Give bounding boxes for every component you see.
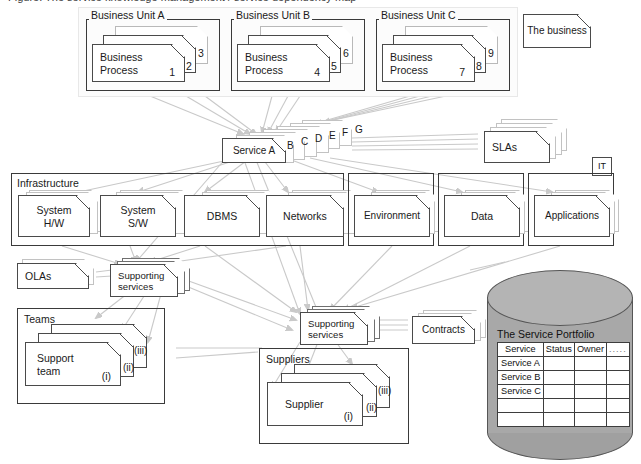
support-team-marker-iii: (iii) bbox=[134, 345, 147, 356]
system-hw-card[interactable]: System H/W bbox=[18, 195, 90, 237]
cell-owner bbox=[574, 357, 606, 371]
business-process-a3-number: 3 bbox=[198, 47, 204, 59]
business-process-c8-number: 8 bbox=[476, 60, 482, 72]
col-status: Status bbox=[543, 343, 574, 357]
infrastructure-group-label: Infrastructure bbox=[17, 177, 79, 189]
system-sw-card[interactable]: System S/W bbox=[100, 195, 176, 237]
business-process-c9-number: 9 bbox=[488, 47, 494, 59]
cell-service: Service A bbox=[498, 357, 544, 371]
business-unit-a-label: Business Unit A bbox=[89, 9, 167, 21]
cylinder-top bbox=[487, 270, 633, 326]
cell-status bbox=[543, 385, 574, 399]
service-d-label: D bbox=[315, 133, 322, 144]
business-process-a2-number: 2 bbox=[186, 60, 192, 72]
supporting-services-internal-card[interactable]: Supporting services bbox=[110, 264, 178, 297]
supplier-marker-iii: (iii) bbox=[378, 385, 391, 396]
cell-status bbox=[543, 357, 574, 371]
data-label: Data bbox=[445, 210, 519, 223]
cell-status bbox=[543, 413, 574, 427]
business-process-c7-card[interactable]: Business Process 7 bbox=[382, 44, 475, 82]
service-portfolio-panel: The Service Portfolio Service Status Own… bbox=[497, 328, 623, 427]
col-more: ..... bbox=[606, 343, 629, 357]
cell-owner bbox=[574, 371, 606, 385]
business-process-a1-number: 1 bbox=[169, 66, 175, 78]
service-g-label: G bbox=[355, 124, 363, 135]
figure-caption-text: Figure: The service knowledge management… bbox=[8, 0, 356, 3]
col-service: Service bbox=[498, 343, 544, 357]
business-process-a1-card[interactable]: Business Process 1 bbox=[92, 44, 185, 82]
networks-card[interactable]: Networks bbox=[266, 195, 344, 237]
business-process-b4-number: 4 bbox=[314, 66, 320, 78]
supporting-services-external-card[interactable]: Supporting services bbox=[300, 312, 368, 345]
environment-label: Environment bbox=[355, 210, 429, 223]
support-team-marker-ii: (ii) bbox=[123, 362, 134, 373]
applications-label: Applications bbox=[535, 210, 609, 223]
cell-more bbox=[606, 413, 629, 427]
table-header-row: Service Status Owner ..... bbox=[498, 343, 630, 357]
support-team-card-i[interactable]: Support team (i) bbox=[25, 342, 121, 386]
figure-caption: Figure: The service knowledge management… bbox=[0, 0, 641, 6]
contracts-card[interactable]: Contracts bbox=[412, 316, 475, 344]
dbms-label: DBMS bbox=[185, 210, 259, 223]
table-row[interactable] bbox=[498, 413, 630, 427]
olas-card[interactable]: OLAs bbox=[17, 263, 89, 289]
supplier-marker-i: (i) bbox=[344, 410, 353, 422]
slas-card[interactable]: SLAs bbox=[484, 131, 550, 163]
service-c-label: C bbox=[301, 136, 308, 147]
business-process-c7-number: 7 bbox=[459, 66, 465, 78]
service-e-label: E bbox=[329, 130, 336, 141]
teams-group-label: Teams bbox=[24, 313, 55, 325]
business-unit-c-label: Business Unit C bbox=[379, 9, 458, 21]
cell-more bbox=[606, 357, 629, 371]
cell-service bbox=[498, 413, 544, 427]
cell-service: Service B bbox=[498, 371, 544, 385]
supplier-card-i[interactable]: Supplier (i) bbox=[267, 382, 363, 426]
cell-owner bbox=[574, 413, 606, 427]
dbms-card[interactable]: DBMS bbox=[184, 195, 260, 237]
col-owner: Owner bbox=[574, 343, 606, 357]
business-unit-b-label: Business Unit B bbox=[234, 9, 312, 21]
supplier-label: Supplier bbox=[268, 398, 362, 411]
cell-status bbox=[543, 399, 574, 413]
table-row[interactable]: Service C bbox=[498, 385, 630, 399]
cell-more bbox=[606, 371, 629, 385]
table-row[interactable]: Service A bbox=[498, 357, 630, 371]
data-card[interactable]: Data bbox=[444, 195, 520, 237]
service-portfolio-table: Service Status Owner ..... Service A Ser… bbox=[497, 342, 630, 427]
applications-card[interactable]: Applications bbox=[534, 195, 610, 237]
suppliers-group-label: Suppliers bbox=[266, 353, 310, 365]
service-f-label: F bbox=[342, 127, 348, 138]
table-row[interactable] bbox=[498, 399, 630, 413]
service-a-card[interactable]: Service A bbox=[222, 138, 286, 163]
business-process-b4-card[interactable]: Business Process 4 bbox=[237, 44, 330, 82]
cell-owner bbox=[574, 399, 606, 413]
cell-service: Service C bbox=[498, 385, 544, 399]
service-b-label: B bbox=[287, 140, 294, 151]
cell-owner bbox=[574, 385, 606, 399]
service-portfolio-title: The Service Portfolio bbox=[497, 328, 623, 340]
business-process-b6-number: 6 bbox=[343, 47, 349, 59]
business-process-b5-number: 5 bbox=[331, 60, 337, 72]
environment-card[interactable]: Environment bbox=[354, 195, 430, 237]
cell-service bbox=[498, 399, 544, 413]
fold-corner-icon bbox=[577, 15, 590, 28]
diagram-canvas: Figure: The service knowledge management… bbox=[0, 0, 641, 464]
supplier-marker-ii: (ii) bbox=[366, 402, 377, 413]
networks-label: Networks bbox=[267, 210, 343, 223]
cell-more bbox=[606, 385, 629, 399]
cell-status bbox=[543, 371, 574, 385]
cell-more bbox=[606, 399, 629, 413]
the-business-box[interactable]: The business bbox=[523, 14, 591, 48]
support-team-marker-i: (i) bbox=[102, 370, 111, 382]
table-row[interactable]: Service B bbox=[498, 371, 630, 385]
